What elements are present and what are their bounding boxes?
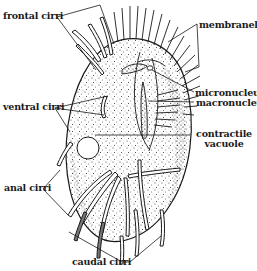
label-anal-cirri: anal cirri — [4, 183, 51, 193]
label-caudal-cirri: caudal cirri — [72, 257, 131, 267]
ciliate-diagram: frontal cirri membranelles micronucleus … — [0, 0, 257, 271]
label-macronucleus: macronucleus — [196, 98, 257, 108]
label-contractile-line2: vacuole — [196, 139, 252, 149]
label-membranelles: membranelles — [199, 20, 257, 30]
micronucleus-shape — [147, 66, 153, 70]
label-ventral-cirri: ventral cirri — [3, 102, 64, 112]
contractile-vacuole-shape — [77, 137, 99, 159]
label-frontal-cirri: frontal cirri — [3, 11, 63, 21]
label-contractile-vacuole: contractile vacuole — [196, 129, 252, 149]
leader-membranelles-bottom — [185, 24, 199, 72]
